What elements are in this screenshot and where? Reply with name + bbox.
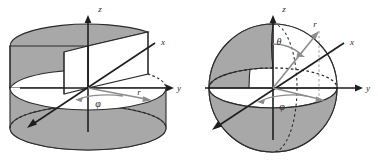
cyl-phi-angle-label: φ xyxy=(95,98,101,109)
sph-phi-angle-label: φ xyxy=(279,101,285,112)
z-axis-arrowhead xyxy=(85,15,92,23)
z-axis-arrowhead xyxy=(270,15,277,23)
sph-z-axis-label: z xyxy=(281,4,286,14)
y-axis-arrowhead xyxy=(166,85,174,92)
cyl-x-axis-label: x xyxy=(160,37,165,47)
sph-x-axis-label: x xyxy=(349,37,354,47)
cyl-z-axis-label: z xyxy=(97,4,102,14)
cylinder-cut-face-front xyxy=(64,46,88,94)
cylinder-upper-wedge xyxy=(10,24,148,94)
cyl-radius-label: r xyxy=(137,87,141,97)
cylindrical-coordinates-diagram: z y x φ r xyxy=(0,0,189,168)
y-axis-arrowhead xyxy=(355,85,363,92)
cyl-y-axis-label: y xyxy=(176,83,181,93)
spherical-coordinates-diagram: z y x θ φ r xyxy=(189,0,378,168)
sph-radius-label: r xyxy=(313,19,317,29)
sphere-cut-upper-right-fill xyxy=(273,24,337,88)
sph-y-axis-label: y xyxy=(365,83,370,93)
figure-root: z y x φ r xyxy=(0,0,378,168)
sph-theta-angle-label: θ xyxy=(277,36,282,47)
